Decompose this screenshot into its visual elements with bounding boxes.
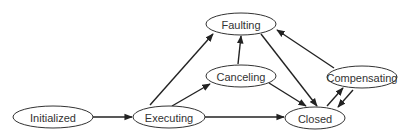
state-canceling: Canceling [206,65,276,87]
state-label: Executing [145,112,193,124]
state-label: Canceling [217,71,266,83]
state-label: Compensating [327,72,398,84]
state-label: Faulting [221,19,260,31]
state-label: Closed [298,113,332,125]
state-compensating: Compensating [327,66,398,88]
transition-arrow-compensating-to-closed [338,90,353,107]
state-executing: Executing [133,106,205,128]
state-faulting: Faulting [206,13,276,35]
transition-arrow-executing-to-faulting [150,34,213,105]
transition-arrow-executing-to-canceling [172,84,210,106]
transition-arrow-canceling-to-closed [269,83,306,106]
state-initialized: Initialized [13,106,93,128]
transition-arrow-canceling-to-faulting [238,36,241,64]
state-closed: Closed [285,107,345,129]
state-diagram: InitializedExecutingFaultingCancelingCom… [0,0,410,139]
state-label: Initialized [30,112,76,124]
transition-arrow-compensating-to-faulting [277,30,334,68]
states: InitializedExecutingFaultingCancelingCom… [13,13,397,129]
